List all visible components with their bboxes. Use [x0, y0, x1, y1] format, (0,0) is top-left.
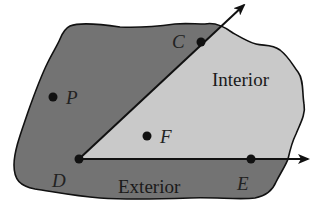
label-c: C: [172, 31, 185, 52]
point-p: [49, 93, 58, 102]
exterior-label: Exterior: [118, 176, 181, 197]
angle-diagram: C P F D E Interior Exterior: [0, 0, 319, 220]
diagram-stage: C P F D E Interior Exterior: [0, 0, 319, 220]
interior-label: Interior: [212, 69, 270, 90]
label-d: D: [51, 170, 66, 191]
point-e: [247, 155, 256, 164]
label-p: P: [65, 87, 78, 108]
point-f: [143, 132, 152, 141]
label-e: E: [236, 173, 249, 194]
point-d: [75, 155, 84, 164]
point-c: [197, 38, 206, 47]
label-f: F: [159, 126, 172, 147]
